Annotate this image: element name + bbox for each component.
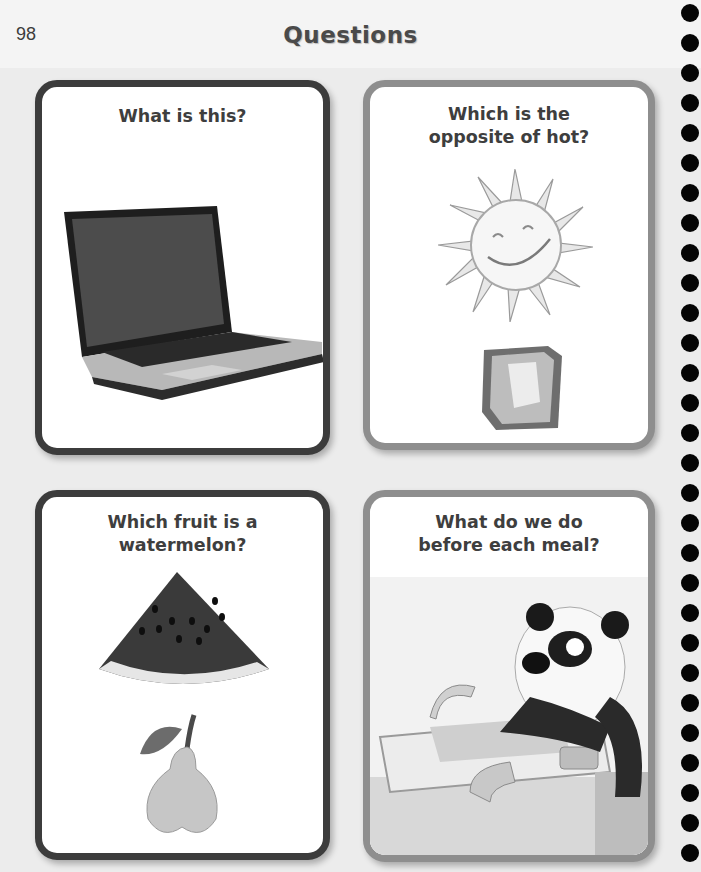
spiral-dot (681, 784, 699, 802)
spiral-dot (681, 664, 699, 682)
spiral-dot (681, 154, 699, 172)
spiral-dot (681, 274, 699, 292)
question-card-before-meal: What do we do before each meal? (363, 490, 655, 862)
spiral-dot (681, 694, 699, 712)
spiral-dot (681, 484, 699, 502)
watermelon-slice-image (97, 569, 272, 699)
spiral-dot (681, 424, 699, 442)
sun-image (438, 167, 593, 322)
spiral-dot (681, 814, 699, 832)
spiral-dot (681, 34, 699, 52)
spiral-dot (681, 364, 699, 382)
page-title: Questions (0, 22, 701, 48)
card-question: Which fruit is a watermelon? (42, 511, 323, 557)
spiral-dot (681, 124, 699, 142)
spiral-dot (681, 574, 699, 592)
spiral-dot (681, 544, 699, 562)
pear-image (132, 709, 232, 839)
spiral-dot (681, 754, 699, 772)
spiral-dot (681, 214, 699, 232)
spiral-dot (681, 4, 699, 22)
spiral-dot (681, 334, 699, 352)
spiral-dot (681, 724, 699, 742)
card-question: What do we do before each meal? (370, 511, 648, 557)
spiral-dot (681, 64, 699, 82)
question-card-watermelon: Which fruit is a watermelon? (35, 490, 330, 860)
question-card-opposite-hot: Which is the opposite of hot? (363, 80, 655, 450)
card-question: Which is the opposite of hot? (370, 103, 648, 149)
spiral-dot (681, 514, 699, 532)
card-question: What is this? (42, 105, 323, 128)
spiral-dot (681, 394, 699, 412)
spiral-dot (681, 454, 699, 472)
spiral-dot (681, 604, 699, 622)
spiral-dot (681, 634, 699, 652)
spiral-dot (681, 244, 699, 262)
spiral-dot (681, 304, 699, 322)
laptop-image (52, 202, 327, 412)
ice-cube-image (478, 342, 568, 432)
spiral-dot (681, 94, 699, 112)
panda-washing-hands-image (370, 577, 650, 862)
question-card-laptop: What is this? (35, 80, 330, 455)
spiral-dot (681, 184, 699, 202)
spiral-dot (681, 844, 699, 862)
